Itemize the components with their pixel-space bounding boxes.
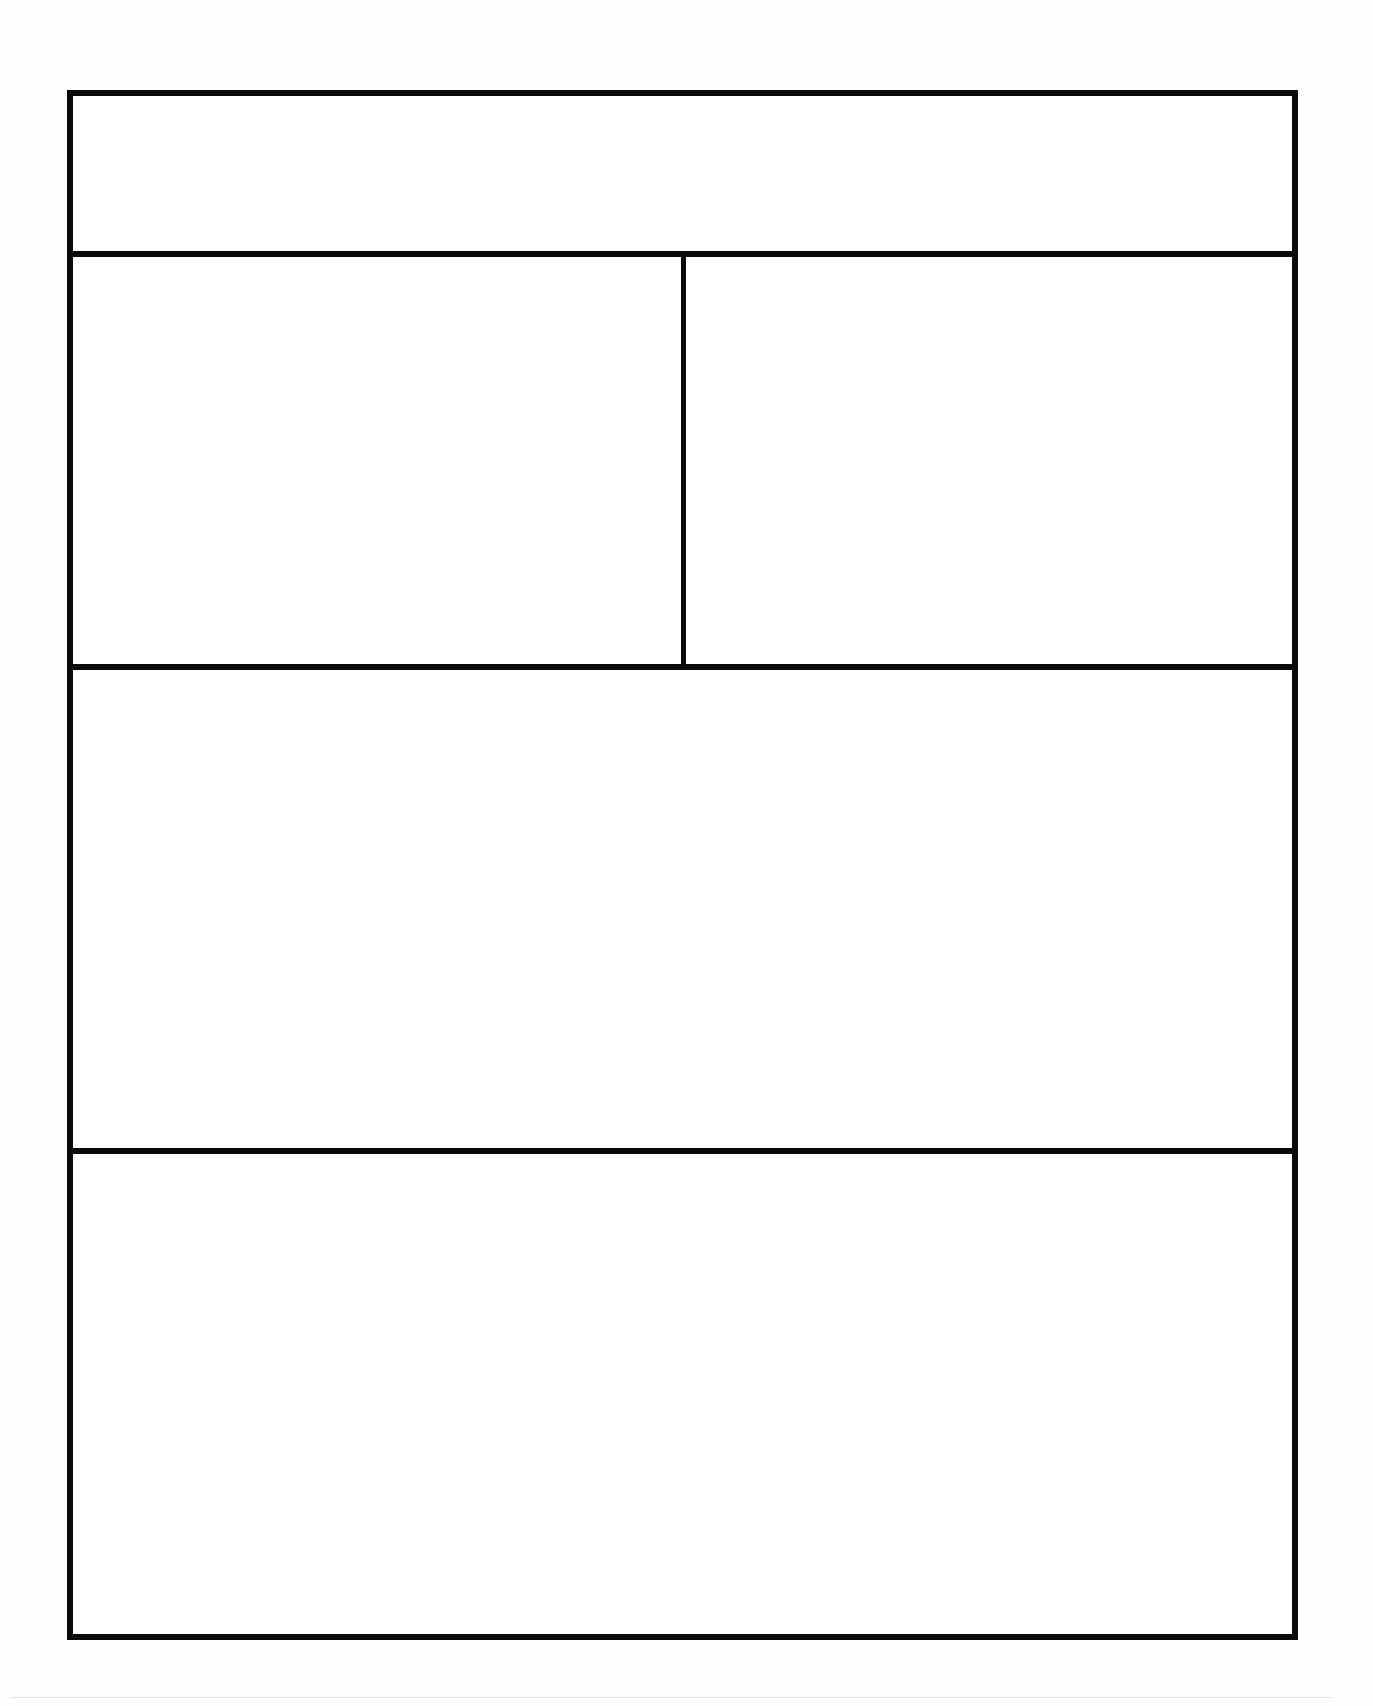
top-left-cell [73,257,681,664]
bottom-cell [73,1154,1292,1634]
scan-line-artifact [10,1697,1333,1698]
header-cell [73,96,1292,251]
top-right-cell [686,257,1292,664]
form-frame [67,90,1298,1640]
middle-cell [73,670,1292,1148]
